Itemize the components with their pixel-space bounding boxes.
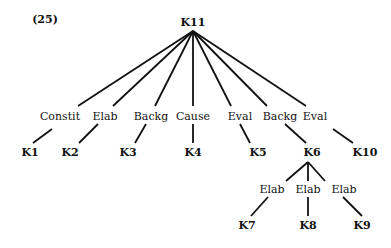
leaf-node: K6 [303, 146, 320, 159]
relation-node: Elab [259, 183, 284, 196]
relation-node: Eval [228, 110, 252, 123]
leaf-node: K5 [249, 146, 266, 159]
example-number: (25) [32, 13, 58, 26]
relation-node: Cause [176, 110, 210, 123]
leaf-node: K8 [299, 219, 316, 232]
leaf-node: K4 [184, 146, 201, 159]
relation-node: Elab [92, 110, 117, 123]
leaf-node: K3 [119, 146, 136, 159]
relation-node: Backg [134, 110, 169, 123]
relation-node: Constit [40, 110, 80, 123]
leaf-node: K2 [61, 146, 78, 159]
leaf-node: K9 [353, 219, 370, 232]
relation-node: Backg [263, 110, 298, 123]
leaf-node: K10 [353, 146, 378, 159]
relation-node: Eval [303, 110, 327, 123]
leaf-node: K1 [21, 146, 38, 159]
relation-node: Elab [331, 183, 356, 196]
tree-edges [0, 0, 391, 248]
leaf-node: K7 [238, 219, 255, 232]
relation-node: Elab [295, 183, 320, 196]
root-node: K11 [181, 16, 206, 29]
